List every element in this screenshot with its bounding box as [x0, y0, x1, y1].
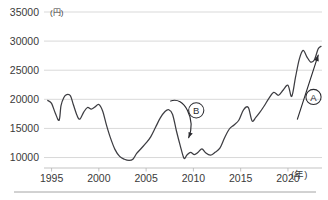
y-axis-tick-label: 20000 — [10, 93, 39, 105]
x-axis-tick-label: 2010 — [182, 172, 206, 184]
annotation-a-label: A — [310, 92, 317, 103]
y-axis-tick-label: 15000 — [10, 122, 39, 134]
x-axis-unit-label: (年) — [291, 169, 307, 180]
chart-container: 100001500020000250003000035000 199520002… — [0, 0, 328, 200]
annotation-b-arrow-head — [189, 132, 193, 138]
line-chart: 100001500020000250003000035000 199520002… — [0, 0, 328, 200]
x-axis-ticks — [52, 168, 288, 172]
y-axis-tick-label: 35000 — [10, 6, 39, 18]
y-axis-unit-label: (円) — [50, 8, 64, 17]
x-axis-tick-label: 2000 — [87, 172, 111, 184]
annotation-a-arrow-shaft — [297, 55, 318, 119]
x-axis-tick-label: 2005 — [134, 172, 158, 184]
data-series-line — [48, 46, 321, 160]
x-axis-tick-labels: 199520002005201020152020 — [40, 172, 300, 184]
y-axis-tick-label: 10000 — [10, 151, 39, 163]
y-axis-tick-labels: 100001500020000250003000035000 — [10, 6, 39, 164]
y-axis-tick-label: 30000 — [10, 35, 39, 47]
annotation-a: A — [297, 55, 321, 119]
x-axis-tick-label: 1995 — [40, 172, 64, 184]
gridlines — [44, 12, 322, 158]
x-axis-tick-label: 2015 — [229, 172, 253, 184]
annotation-b-label: B — [193, 105, 199, 116]
annotation-b: B — [171, 100, 204, 137]
y-axis-tick-label: 25000 — [10, 64, 39, 76]
